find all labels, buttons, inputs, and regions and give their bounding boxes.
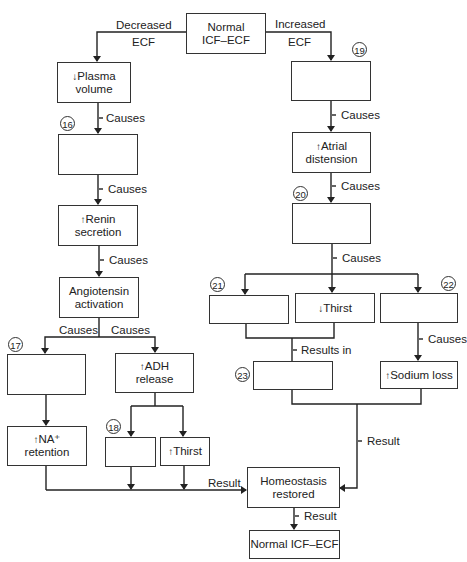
atrial-distension-node: ↑Atrial distension [292,132,371,173]
sodium-loss-node: ↑Sodium loss [380,361,458,389]
homeostasis-line2: restored [272,488,314,501]
blank-node-21 [209,295,289,324]
number-badge-21: 21 [210,277,225,292]
plasma-line1: Plasma [77,70,115,82]
result-label: Result [304,510,337,522]
renin-line1: Renin [85,213,115,225]
number-badge-16: 16 [60,116,75,131]
na-line1: NA⁺ [39,433,61,445]
causes-label: Causes [111,324,150,336]
blank-node-19 [291,61,371,101]
causes-label: Causes [59,324,98,336]
number-badge-18: 18 [106,419,121,434]
number-badge-19: 19 [352,42,367,57]
start-line1: Normal [207,21,244,34]
homeostasis-restored-node: Homeostasis restored [247,467,340,508]
decreased-ecf-label: ECF [132,36,155,48]
end-label: Normal ICF–ECF [250,538,338,551]
adh-line2: release [136,373,174,386]
thirst-up-label: Thirst [173,445,202,458]
atrial-line1: Atrial [321,140,347,152]
number-badge-17: 17 [8,337,23,352]
number-badge-23: 23 [235,367,250,382]
start-line2: ICF–ECF [202,34,250,47]
blank-node-20 [292,203,371,244]
sodium-loss-label: Sodium loss [390,369,453,382]
adh-release-node: ↑ADH release [115,353,194,393]
causes-label: Causes [341,109,380,121]
result-label: Result [208,477,241,489]
decreased-label: Decreased [116,19,172,31]
increased-thirst-node: ↑Thirst [160,437,210,466]
blank-node-16 [58,134,138,175]
blank-node-18 [105,437,156,467]
angiotensin-line1: Angiotensin [69,285,129,298]
thirst-down-label: Thirst [323,302,352,315]
blank-node-22 [380,293,458,323]
results-in-label: Results in [301,344,352,356]
renin-secretion-node: ↑Renin secretion [58,205,138,246]
causes-label: Causes [106,112,145,124]
blank-node-17 [7,354,86,395]
blank-node-23 [253,361,333,390]
end-node-normal-icf-ecf: Normal ICF–ECF [249,530,340,559]
na-line2: retention [25,446,70,459]
na-retention-node: ↑NA⁺ retention [7,426,87,466]
start-node-normal-icf-ecf: Normal ICF–ECF [186,13,266,54]
increased-ecf-label: ECF [288,36,311,48]
increased-label: Increased [275,18,326,30]
renin-line2: secretion [75,226,122,239]
decreased-thirst-node: ↓Thirst [295,293,375,323]
homeostasis-line1: Homeostasis [260,475,326,488]
causes-label: Causes [108,183,147,195]
plasma-volume-node: ↓Plasma volume [57,62,131,103]
plasma-line2: volume [75,83,112,96]
number-badge-22: 22 [441,276,456,291]
causes-label: Causes [428,333,467,345]
causes-label: Causes [341,180,380,192]
result-label: Result [367,435,400,447]
adh-line1: ADH [145,360,169,372]
causes-label: Causes [342,252,381,264]
number-badge-20: 20 [293,186,308,201]
causes-label: Causes [109,254,148,266]
angiotensin-line2: activation [75,298,124,311]
angiotensin-activation-node: Angiotensin activation [59,277,139,318]
atrial-line2: distension [306,153,358,166]
